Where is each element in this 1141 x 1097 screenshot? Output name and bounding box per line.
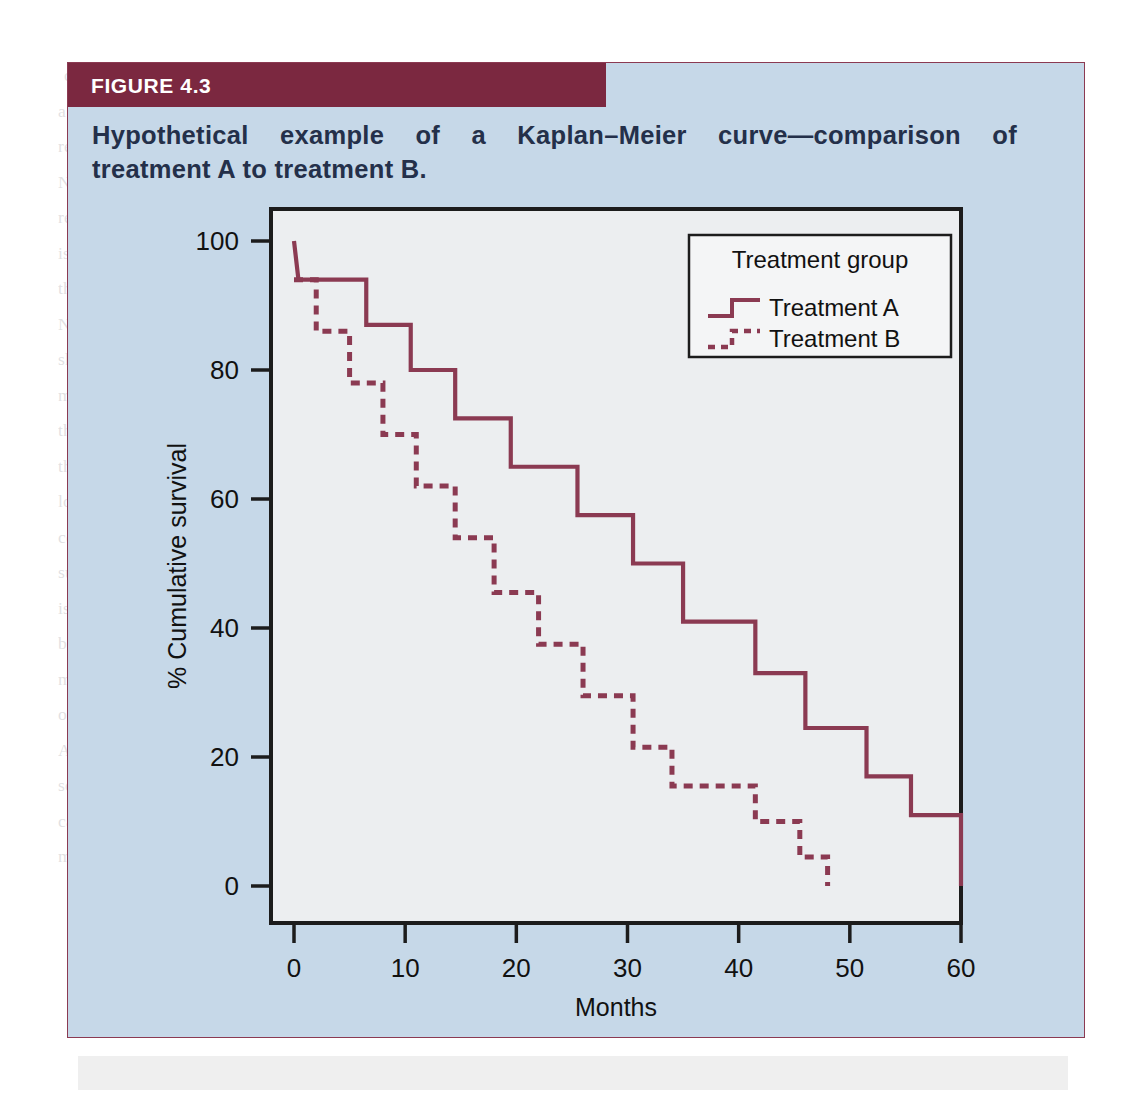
x-tick-label: 50 xyxy=(835,953,864,983)
legend-label-treatment-b: Treatment B xyxy=(769,325,900,352)
kaplan-meier-chart: 0102030405060020406080100 % Cumulative s… xyxy=(68,63,1086,1039)
x-tick-label: 40 xyxy=(724,953,753,983)
figure-box: FIGURE 4.3 Hypothetical example of a Kap… xyxy=(67,62,1085,1038)
bottom-grey-band xyxy=(78,1056,1068,1090)
legend-label-treatment-a: Treatment A xyxy=(769,294,899,321)
x-axis-title: Months xyxy=(575,993,657,1021)
y-tick-label: 100 xyxy=(196,226,239,256)
y-tick-label: 20 xyxy=(210,742,239,772)
x-tick-label: 20 xyxy=(502,953,531,983)
x-tick-label: 10 xyxy=(391,953,420,983)
legend-title: Treatment group xyxy=(732,246,909,273)
x-tick-label: 30 xyxy=(613,953,642,983)
x-tick-label: 0 xyxy=(287,953,301,983)
y-tick-label: 40 xyxy=(210,613,239,643)
chart-legend: Treatment group Treatment A Treatment B xyxy=(689,235,951,357)
y-tick-label: 80 xyxy=(210,355,239,385)
x-tick-label: 60 xyxy=(947,953,976,983)
plot-area: 0102030405060020406080100 % Cumulative s… xyxy=(68,63,1086,1039)
y-tick-label: 60 xyxy=(210,484,239,514)
y-axis-title: % Cumulative survival xyxy=(163,443,191,689)
y-tick-label: 0 xyxy=(225,871,239,901)
